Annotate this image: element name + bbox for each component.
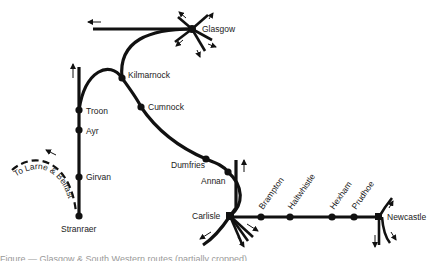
station-dot-annan (224, 168, 231, 175)
arrow-icon (209, 13, 213, 19)
label-ayr: Ayr (86, 126, 99, 136)
newcastle-hub-marker (375, 213, 382, 220)
label-haltwhistle: Haltwhistle (285, 172, 317, 212)
station-labels: Glasgow Kilmarnock Cumnock Troon Ayr Gir… (61, 24, 426, 234)
track-kilmarnock-troon (79, 69, 122, 110)
label-dumfries: Dumfries (171, 160, 205, 170)
label-glasgow: Glasgow (202, 24, 236, 34)
station-dot-hexham (328, 213, 335, 220)
figure-caption: Figure — Glasgow & South Western routes … (0, 254, 440, 261)
label-kilmarnock: Kilmarnock (128, 70, 171, 80)
station-dot-ayr (75, 126, 82, 133)
ferry-branch-larne-belfast: To Larne & Belfast (12, 150, 76, 212)
arrow-west-icon (46, 150, 56, 155)
station-dot-haltwhistle (286, 213, 293, 220)
station-dot-cumnock (137, 103, 144, 110)
station-dot-prudhoe (350, 213, 357, 220)
label-newcastle: Newcastle (387, 212, 426, 222)
station-dot-girvan (75, 173, 82, 180)
track-kilmarnock-carlisle (122, 78, 240, 216)
label-brampton: Brampton (256, 175, 285, 211)
label-stranraer: Stranraer (61, 224, 97, 234)
label-troon: Troon (86, 106, 108, 116)
station-dot-stranraer (75, 212, 82, 219)
station-dot-kilmarnock (118, 74, 125, 81)
label-cumnock: Cumnock (148, 102, 185, 112)
glasgow-junction (175, 12, 216, 57)
railway-diagram: To Larne & Belfast Glasgow Kilmarnock Cu… (0, 0, 440, 261)
arrow-icon (197, 50, 200, 57)
newcastle-junction (375, 198, 396, 247)
label-annan: Annan (201, 176, 226, 186)
branch-label: To Larne & Belfast (12, 161, 76, 200)
track-carlisle-north (230, 160, 244, 216)
label-prudhoe: Prudhoe (349, 179, 376, 211)
station-dot-troon (75, 106, 82, 113)
label-carlisle: Carlisle (192, 211, 221, 221)
track-glasgow-west (88, 22, 192, 29)
station-dot-brampton (257, 213, 264, 220)
station-markers (75, 74, 357, 220)
arrow-icon (247, 224, 258, 231)
arrow-icon (208, 44, 216, 47)
label-girvan: Girvan (86, 172, 111, 182)
arrow-icon (200, 232, 211, 239)
arrow-icon (391, 232, 396, 240)
